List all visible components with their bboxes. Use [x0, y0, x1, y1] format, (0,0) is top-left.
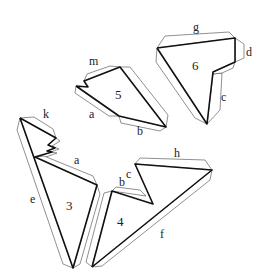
net-diagram: g d c 6 m a b 5 k a e 3: [0, 0, 270, 276]
label-c-4: c: [126, 167, 131, 181]
label-c: c: [221, 90, 226, 104]
label-b-4: b: [119, 175, 125, 189]
label-a-5: a: [89, 107, 95, 121]
flap-d: [235, 38, 244, 62]
face-number-5: 5: [115, 87, 122, 102]
label-b-5: b: [137, 124, 143, 138]
label-g: g: [193, 20, 199, 34]
piece-3: k a e 3: [17, 107, 100, 268]
piece-5: m a b 5: [75, 54, 168, 138]
label-e: e: [30, 192, 35, 206]
label-f: f: [160, 227, 164, 241]
label-m: m: [89, 54, 99, 68]
label-d: d: [246, 45, 252, 59]
face-number-4: 4: [117, 214, 124, 229]
piece-4: b c h f 4: [86, 146, 212, 267]
label-h: h: [174, 146, 180, 160]
face-number-3: 3: [66, 198, 73, 213]
face-number-6: 6: [192, 58, 199, 73]
piece-6: g d c 6: [156, 20, 252, 124]
label-a-3: a: [74, 153, 80, 167]
label-k: k: [43, 107, 49, 121]
